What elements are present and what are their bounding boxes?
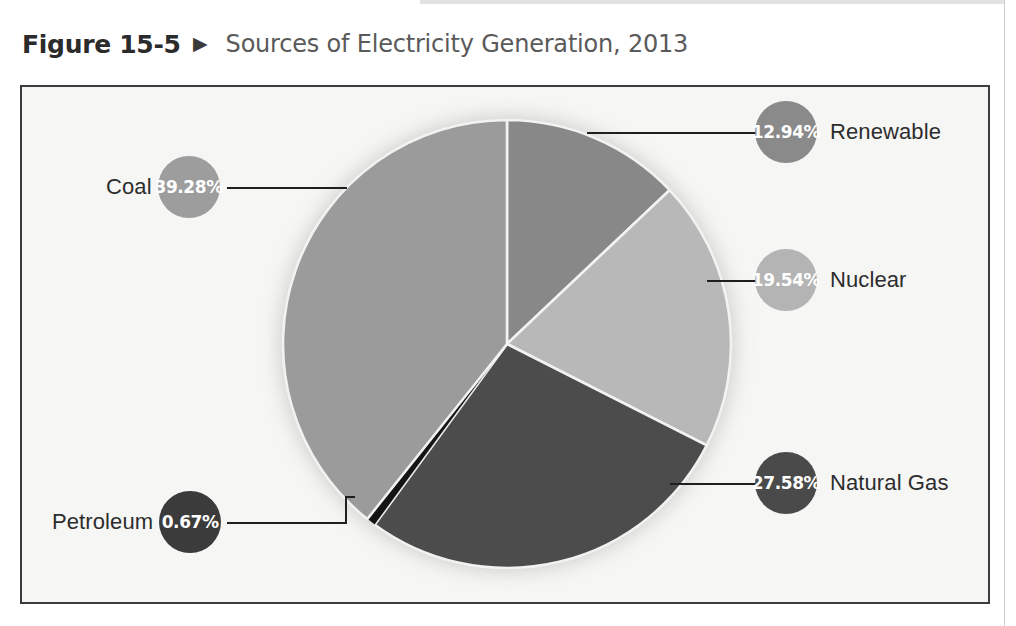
percent-label-renewable: 12.94%	[752, 124, 820, 141]
triangle-right-icon: ▶	[193, 34, 208, 53]
callout-petroleum[interactable]: Petroleum 0.67%	[52, 491, 221, 553]
percent-bubble-natural-gas: 27.58%	[755, 452, 817, 514]
pie-slices-svg	[272, 109, 742, 579]
series-label-petroleum: Petroleum	[52, 509, 153, 535]
series-label-nuclear: Nuclear	[830, 267, 907, 293]
figure-title-bar: Figure 15-5 ▶ Sources of Electricity Gen…	[22, 22, 902, 66]
callout-nuclear[interactable]: 19.54% Nuclear	[755, 249, 907, 311]
percent-label-nuclear: 19.54%	[752, 272, 820, 289]
percent-label-coal: 39.28%	[154, 179, 222, 196]
chart-frame: 12.94% Renewable 19.54% Nuclear 27.58% N…	[20, 85, 990, 604]
page-scan-right-edge	[1004, 0, 1005, 626]
series-label-renewable: Renewable	[830, 119, 941, 145]
leader-line-coal	[227, 187, 347, 189]
percent-bubble-renewable: 12.94%	[755, 101, 817, 163]
callout-renewable[interactable]: 12.94% Renewable	[755, 101, 941, 163]
percent-label-natural-gas: 27.58%	[752, 475, 820, 492]
leader-line-petroleum-elbow	[345, 497, 347, 524]
pie-chart	[272, 109, 742, 579]
series-label-natural-gas: Natural Gas	[830, 470, 948, 496]
percent-bubble-petroleum: 0.67%	[159, 491, 221, 553]
percent-bubble-coal: 39.28%	[158, 156, 220, 218]
percent-label-petroleum: 0.67%	[162, 514, 219, 531]
chart-plot-area: 12.94% Renewable 19.54% Nuclear 27.58% N…	[22, 87, 988, 602]
percent-bubble-nuclear: 19.54%	[755, 249, 817, 311]
callout-coal[interactable]: Coal 39.28%	[106, 156, 220, 218]
leader-line-petroleum-tip	[345, 496, 355, 498]
series-label-coal: Coal	[106, 174, 152, 200]
leader-line-petroleum	[227, 522, 347, 524]
figure-number: Figure 15-5	[22, 30, 181, 59]
page-title: Sources of Electricity Generation, 2013	[226, 30, 689, 58]
callout-natural-gas[interactable]: 27.58% Natural Gas	[755, 452, 948, 514]
page-scan-top-edge	[420, 0, 1004, 4]
leader-line-renewable	[587, 132, 777, 134]
